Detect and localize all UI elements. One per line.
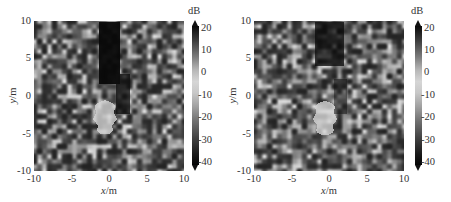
y-tick: 10 xyxy=(229,16,251,26)
colorbar-unit-label: dB xyxy=(188,5,200,16)
colorbar-tick: -40 xyxy=(421,157,435,167)
y-tick: 10 xyxy=(9,16,31,26)
colorbar-tick: 10 xyxy=(424,45,435,55)
left-figure-panel: 10 5 0 -5 -10 y/m -10 -5 0 5 10 x/m dB 2… xyxy=(0,0,225,202)
x-tick: 0 xyxy=(97,174,121,184)
left-heatmap xyxy=(34,21,184,171)
x-axis-label: x/m xyxy=(94,185,124,196)
colorbar-tick: -10 xyxy=(421,90,435,100)
colorbar-tick: 20 xyxy=(424,23,435,33)
x-tick: -5 xyxy=(60,174,84,184)
y-axis-label: y/m xyxy=(7,86,18,106)
colorbar-unit-label: dB xyxy=(411,5,423,16)
x-tick: -10 xyxy=(242,174,266,184)
x-tick: -5 xyxy=(280,174,304,184)
right-heatmap xyxy=(254,21,404,171)
x-axis-label: x/m xyxy=(314,185,344,196)
x-tick: 5 xyxy=(355,174,379,184)
colorbar-tick: -20 xyxy=(198,112,212,122)
colorbar-tick: 20 xyxy=(201,23,212,33)
y-tick: -5 xyxy=(229,129,251,139)
y-tick: 5 xyxy=(229,53,251,63)
colorbar-tick: 0 xyxy=(201,67,206,77)
colorbar-tick: -20 xyxy=(421,112,435,122)
y-tick: -5 xyxy=(9,129,31,139)
colorbar-tick: -30 xyxy=(198,135,212,145)
right-figure-panel: 10 5 0 -5 -10 y/m -10 -5 0 5 10 x/m dB 2… xyxy=(220,0,445,202)
y-axis-label: y/m xyxy=(227,86,238,106)
y-tick: 5 xyxy=(9,53,31,63)
colorbar-tick: 10 xyxy=(201,45,212,55)
x-tick: 5 xyxy=(135,174,159,184)
x-tick: 10 xyxy=(392,174,416,184)
colorbar-tick: -40 xyxy=(198,157,212,167)
colorbar-tick: 0 xyxy=(424,67,429,77)
colorbar-tick: -10 xyxy=(198,90,212,100)
x-tick: -10 xyxy=(22,174,46,184)
colorbar-tick: -30 xyxy=(421,135,435,145)
x-tick: 0 xyxy=(317,174,341,184)
x-tick: 10 xyxy=(172,174,196,184)
